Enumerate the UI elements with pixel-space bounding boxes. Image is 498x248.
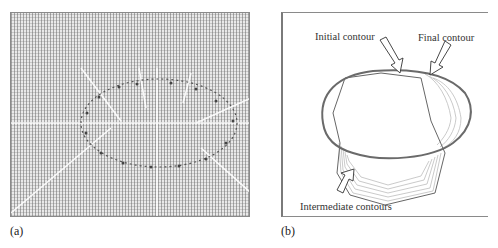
initial-contour-arrow <box>380 37 403 73</box>
intermediate-contours <box>339 74 461 201</box>
contour-evolution-panel: Initial contour Final contour Intermedia… <box>281 12 488 217</box>
panel-b-caption: (b) <box>281 224 295 239</box>
contour-graphic <box>283 13 490 218</box>
final-contour <box>322 70 471 158</box>
vector-field-graphic <box>11 13 250 217</box>
intermediate-contours-label: Intermediate contours <box>300 201 392 212</box>
final-contour-label: Final contour <box>418 32 474 43</box>
initial-contour <box>333 73 445 205</box>
final-contour-arrow <box>430 41 451 75</box>
vector-field-panel <box>10 12 250 217</box>
initial-contour-label: Initial contour <box>315 31 375 42</box>
intermediate-contour-arrow <box>337 169 354 193</box>
panel-a-caption: (a) <box>10 224 23 239</box>
